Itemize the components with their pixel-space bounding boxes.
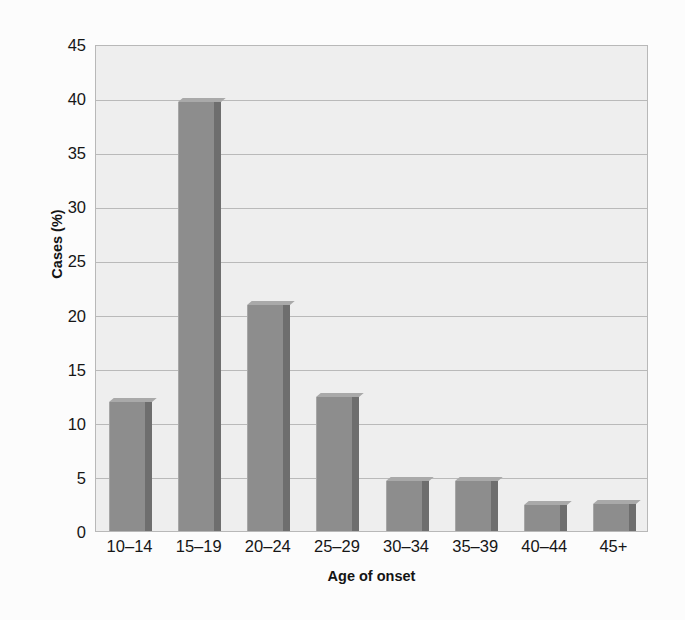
y-tick-label-5: 5 — [36, 468, 86, 487]
bar-top — [316, 393, 364, 397]
bar-chart-figure: Cases (%) 051015202530354045 10–1415–192… — [0, 0, 685, 620]
bar-20–24 — [247, 301, 290, 531]
x-tick-label-20–24: 20–24 — [245, 537, 291, 556]
y-tick-label-35: 35 — [36, 144, 86, 163]
bar-side — [214, 98, 221, 531]
plot-area — [95, 45, 648, 532]
y-tick-label-20: 20 — [36, 306, 86, 325]
bar-top — [178, 98, 226, 102]
bar-side — [491, 477, 498, 531]
bar-10–14 — [109, 398, 152, 531]
y-tick-label-40: 40 — [36, 90, 86, 109]
bar-face — [109, 402, 145, 531]
bar-25–29 — [316, 393, 359, 531]
bar-face — [593, 504, 629, 531]
bar-face — [524, 505, 560, 531]
x-axis-tick-labels: 10–1415–1920–2425–2930–3435–3940–4445+ — [95, 537, 648, 565]
bar-face — [316, 397, 352, 531]
y-tick-label-10: 10 — [36, 414, 86, 433]
y-tick-label-0: 0 — [36, 523, 86, 542]
bar-side — [422, 477, 429, 531]
bar-face — [247, 305, 283, 531]
bars-layer — [96, 46, 647, 531]
x-tick-label-40–44: 40–44 — [521, 537, 567, 556]
y-tick-label-30: 30 — [36, 198, 86, 217]
bar-side — [560, 501, 567, 531]
bar-45+ — [593, 500, 636, 531]
y-tick-label-15: 15 — [36, 360, 86, 379]
bar-side — [352, 393, 359, 531]
bar-15–19 — [178, 98, 221, 531]
bar-top — [247, 301, 295, 305]
x-tick-label-30–34: 30–34 — [383, 537, 429, 556]
x-tick-label-45+: 45+ — [599, 537, 627, 556]
bar-side — [283, 301, 290, 531]
bar-top — [109, 398, 157, 402]
x-tick-label-15–19: 15–19 — [176, 537, 222, 556]
bar-40–44 — [524, 501, 567, 531]
y-tick-label-45: 45 — [36, 36, 86, 55]
bar-top — [524, 501, 572, 505]
bar-side — [629, 500, 636, 531]
bar-face — [178, 102, 214, 531]
bar-top — [386, 477, 434, 481]
x-tick-label-25–29: 25–29 — [314, 537, 360, 556]
bar-35–39 — [455, 477, 498, 531]
bar-30–34 — [386, 477, 429, 531]
bar-face — [455, 481, 491, 531]
y-tick-label-25: 25 — [36, 252, 86, 271]
x-axis-title: Age of onset — [95, 568, 648, 584]
bar-top — [455, 477, 503, 481]
bar-side — [145, 398, 152, 531]
x-tick-label-35–39: 35–39 — [452, 537, 498, 556]
x-tick-label-10–14: 10–14 — [107, 537, 153, 556]
bar-top — [593, 500, 641, 504]
bar-face — [386, 481, 422, 531]
y-axis-tick-labels: 051015202530354045 — [36, 45, 86, 532]
